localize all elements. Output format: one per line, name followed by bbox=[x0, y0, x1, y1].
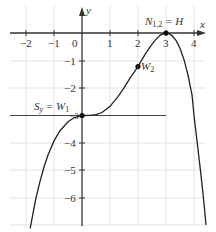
function-curve bbox=[30, 33, 206, 228]
annotation-n-h: N1,2 = H bbox=[144, 15, 184, 29]
y-tick-label: −6 bbox=[64, 192, 76, 204]
x-axis bbox=[10, 30, 206, 36]
y-tick-label: −1 bbox=[64, 55, 76, 67]
origin-label: 0 bbox=[72, 37, 78, 49]
y-tick-label: −4 bbox=[64, 137, 76, 149]
point-n-h bbox=[163, 30, 168, 35]
x-tick-label: 1 bbox=[107, 37, 113, 49]
y-axis-arrow-icon bbox=[79, 7, 85, 16]
y-tick-label: −2 bbox=[64, 82, 76, 94]
y-tick-label: −3 bbox=[70, 112, 79, 121]
x-axis-label: x bbox=[199, 18, 205, 30]
y-axis-label: y bbox=[85, 4, 91, 16]
point-w2 bbox=[135, 64, 140, 69]
x-tick-label: −2 bbox=[20, 37, 32, 49]
x-tick-label: 2 bbox=[135, 37, 141, 49]
x-tick-label: 4 bbox=[191, 37, 197, 49]
annotation-sy-w1: Sy = W1 bbox=[34, 100, 69, 114]
x-tick-label: −1 bbox=[48, 37, 60, 49]
annotation-w2: W2 bbox=[141, 60, 154, 74]
point-sy-w1 bbox=[79, 113, 84, 118]
x-axis-arrow-icon bbox=[197, 30, 206, 36]
x-tick-label: 3 bbox=[163, 37, 169, 49]
function-plot: y x −2 −1 0 1 2 3 4 −1 −2 −3 −4 −5 −6 Sy… bbox=[0, 0, 216, 232]
y-tick-label: −5 bbox=[64, 164, 76, 176]
